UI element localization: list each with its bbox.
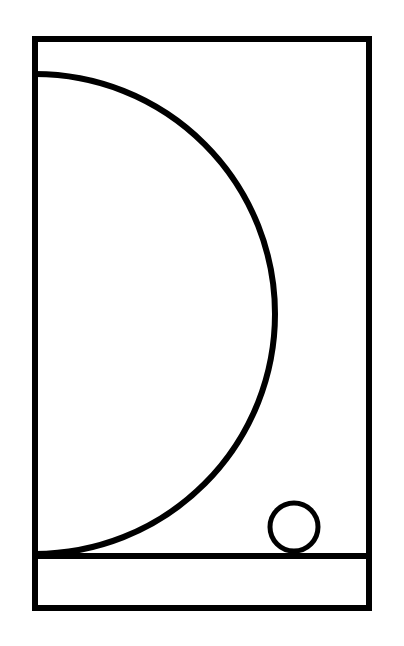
diagram-figure: [0, 0, 404, 646]
diagram-canvas: [0, 0, 404, 646]
small-circle-ball: [270, 503, 318, 551]
large-semicircle-arc: [35, 74, 275, 554]
